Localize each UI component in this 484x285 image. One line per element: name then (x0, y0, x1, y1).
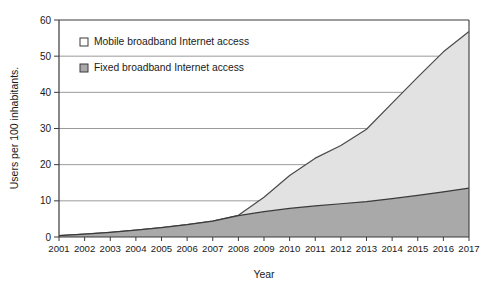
area-chart: 0102030405060 20012002200320042005200620… (0, 0, 484, 285)
legend-swatch-mobile (80, 38, 88, 46)
y-tick-label: 10 (40, 195, 52, 206)
y-tick-label: 20 (40, 159, 52, 170)
x-tick-label: 2015 (407, 243, 428, 254)
legend-label: Fixed broadband Internet access (94, 62, 244, 73)
y-tick-label: 30 (40, 123, 52, 134)
x-tick-label: 2003 (100, 243, 121, 254)
legend-swatch-fixed (80, 64, 88, 72)
y-axis-title: Users per 100 inhabitants. (8, 67, 20, 190)
x-tick-label: 2005 (151, 243, 172, 254)
y-axis-ticks: 0102030405060 (40, 15, 59, 243)
chart-container: 0102030405060 20012002200320042005200620… (0, 0, 484, 285)
y-tick-label: 40 (40, 87, 52, 98)
legend-label: Mobile broadband Internet access (94, 36, 249, 47)
x-tick-label: 2002 (74, 243, 95, 254)
x-tick-label: 2006 (176, 243, 197, 254)
x-tick-label: 2013 (356, 243, 377, 254)
x-tick-label: 2016 (433, 243, 454, 254)
x-tick-label: 2014 (381, 243, 403, 254)
x-axis-ticks: 2001200220032004200520062007200820092010… (48, 237, 479, 254)
x-tick-label: 2004 (125, 243, 147, 254)
x-tick-label: 2008 (228, 243, 249, 254)
y-tick-label: 60 (40, 15, 52, 26)
x-tick-label: 2010 (279, 243, 300, 254)
x-tick-label: 2007 (202, 243, 223, 254)
x-tick-label: 2001 (48, 243, 69, 254)
x-axis-title: Year (253, 268, 275, 280)
x-tick-label: 2011 (305, 243, 326, 254)
y-tick-label: 50 (40, 51, 52, 62)
x-tick-label: 2009 (253, 243, 274, 254)
x-tick-label: 2017 (458, 243, 479, 254)
y-tick-label: 0 (45, 232, 51, 243)
x-tick-label: 2012 (330, 243, 351, 254)
chart-legend: Mobile broadband Internet accessFixed br… (80, 36, 249, 73)
